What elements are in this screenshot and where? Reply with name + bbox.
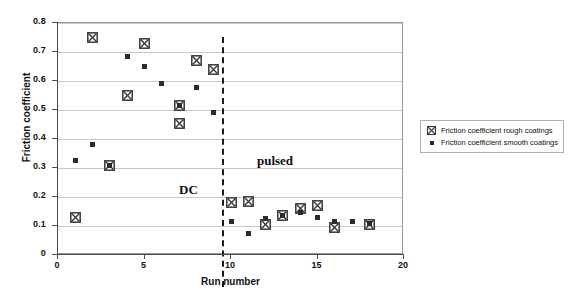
data-point-smooth — [332, 219, 337, 224]
data-point-smooth — [246, 231, 251, 236]
data-point-smooth — [315, 215, 320, 220]
data-point-smooth — [280, 213, 285, 218]
gridline — [58, 110, 402, 111]
friction-coefficient-scatter-chart: DCpulsed 00.10.20.30.40.50.60.70.8 05101… — [0, 0, 584, 301]
legend-label-rough: Friction coefficient rough coatings — [441, 126, 553, 135]
x-axis-tick — [57, 254, 58, 259]
data-point-smooth — [142, 64, 147, 69]
data-point-smooth — [298, 210, 303, 215]
y-axis-tick-label: 0 — [0, 248, 46, 258]
x-axis-label: Run number — [57, 276, 404, 287]
y-axis-tick — [52, 22, 57, 23]
gridline — [58, 52, 402, 53]
y-axis-tick-label: 0.2 — [0, 190, 46, 200]
x-axis-tick — [403, 254, 404, 259]
x-axis-tick-label: 5 — [129, 260, 159, 270]
data-point-smooth — [125, 54, 130, 59]
y-axis-line — [57, 22, 58, 255]
y-axis-tick — [52, 196, 57, 197]
data-point-smooth — [177, 103, 182, 108]
data-point-smooth — [367, 221, 372, 226]
data-point-smooth — [90, 142, 95, 147]
legend-label-smooth: Friction coefficient smooth coatings — [441, 138, 558, 147]
y-axis-tick — [52, 80, 57, 81]
data-point-rough — [226, 197, 237, 208]
x-axis-tick-label: 15 — [302, 260, 332, 270]
filled-square-icon — [425, 137, 438, 148]
gridline — [58, 139, 402, 140]
data-point-rough — [191, 55, 202, 66]
gridline — [58, 81, 402, 82]
y-axis-label: Friction coefficient — [21, 48, 32, 188]
data-point-smooth — [107, 163, 112, 168]
crossed-square-icon — [425, 125, 438, 136]
dc-pulsed-divider — [222, 37, 224, 287]
data-point-rough — [174, 118, 185, 129]
data-point-rough — [70, 212, 81, 223]
data-point-smooth — [350, 219, 355, 224]
data-point-smooth — [229, 219, 234, 224]
chart-legend: Friction coefficient rough coatings Fric… — [420, 120, 564, 153]
data-point-rough — [243, 196, 254, 207]
data-point-smooth — [159, 81, 164, 86]
y-axis-tick — [52, 225, 57, 226]
y-axis-tick — [52, 167, 57, 168]
data-point-rough — [139, 38, 150, 49]
y-axis-tick — [52, 109, 57, 110]
data-point-smooth — [194, 85, 199, 90]
x-axis-tick-label: 20 — [388, 260, 418, 270]
x-axis-tick — [230, 254, 231, 259]
plot-area: DCpulsed — [57, 22, 403, 254]
y-axis-tick — [52, 51, 57, 52]
region-label-pulsed: pulsed — [257, 153, 293, 169]
data-point-smooth — [263, 216, 268, 221]
data-point-smooth — [73, 158, 78, 163]
gridline — [58, 226, 402, 227]
region-label-dc: DC — [179, 182, 198, 198]
x-axis-tick-label: 0 — [42, 260, 72, 270]
y-axis-tick-label: 0.8 — [0, 16, 46, 26]
data-point-rough — [312, 200, 323, 211]
data-point-rough — [208, 64, 219, 75]
y-axis-tick — [52, 138, 57, 139]
x-axis-tick — [144, 254, 145, 259]
legend-item-rough: Friction coefficient rough coatings — [425, 125, 558, 136]
data-point-rough — [122, 90, 133, 101]
x-axis-tick — [317, 254, 318, 259]
y-axis-tick-label: 0.1 — [0, 219, 46, 229]
legend-item-smooth: Friction coefficient smooth coatings — [425, 137, 558, 148]
data-point-smooth — [211, 110, 216, 115]
gridline — [58, 23, 402, 24]
data-point-rough — [87, 32, 98, 43]
x-axis-tick-label: 10 — [215, 260, 245, 270]
